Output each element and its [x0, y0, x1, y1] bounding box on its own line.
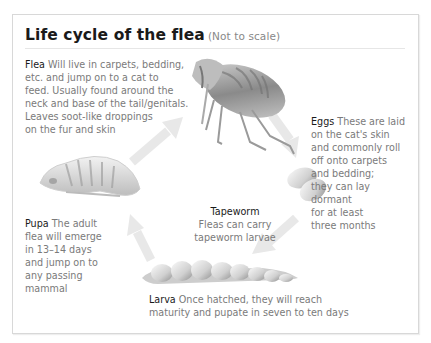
flea-text: Will live in carpets, bedding, etc. and … [25, 59, 188, 135]
larva-description: Larva Once hatched, they will reach matu… [149, 293, 349, 319]
tapeworm-description: TapewormFleas can carry tapeworm larvae [180, 205, 290, 244]
flea-illustration [192, 54, 294, 154]
pupa-description: Pupa The adult flea will emerge in 13–14… [25, 217, 102, 295]
eggs-description: Eggs These are laid on the cat's skin an… [311, 115, 405, 232]
arrow-flea-to-eggs [272, 115, 299, 158]
pupa-label: Pupa [25, 218, 49, 229]
flea-description: Flea Will live in carpets, bedding, etc.… [25, 58, 188, 136]
eggs-label: Eggs [311, 116, 334, 127]
larva-illustration [142, 260, 298, 284]
larva-label: Larva [149, 294, 176, 305]
pupa-text: The adult flea will emerge in 13–14 days… [25, 218, 102, 294]
pupa-illustration [40, 156, 140, 196]
tapeworm-label: Tapeworm [180, 205, 290, 218]
eggs-text: These are laid on the cat's skin and com… [311, 116, 405, 231]
tapeworm-text: Fleas can carry tapeworm larvae [180, 218, 290, 244]
arrow-larva-to-pupa [127, 214, 151, 260]
larva-text: Once hatched, they will reach maturity a… [149, 294, 349, 318]
flea-label: Flea [25, 59, 45, 70]
